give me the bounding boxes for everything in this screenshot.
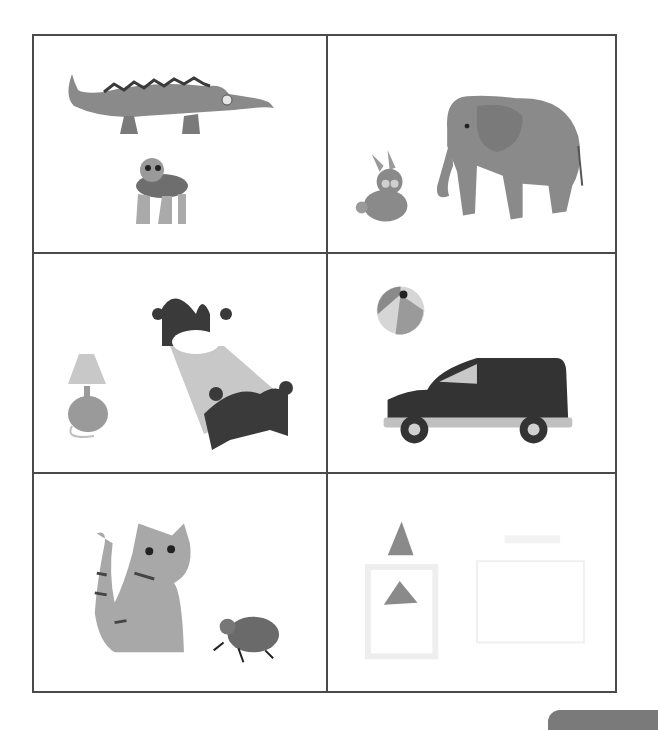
cell-rabbit-elephant[interactable] (328, 36, 615, 254)
van-icon (384, 358, 573, 443)
cat-beetle-illustration (34, 474, 326, 691)
rabbit-elephant-illustration (328, 36, 615, 252)
cell-ball-van[interactable] (328, 254, 615, 474)
beetle-icon (214, 617, 279, 663)
page-corner-tab (548, 710, 658, 730)
turtle-icon (136, 158, 188, 224)
cell-lamp-bed[interactable] (34, 254, 328, 474)
glue-bottle-icon (368, 522, 435, 657)
ball-van-illustration (328, 254, 615, 472)
picture-grid (32, 34, 617, 693)
cell-crocodile-turtle[interactable] (34, 36, 328, 254)
crocodile-icon (68, 74, 274, 134)
cell-glue-paper[interactable] (328, 474, 615, 691)
elephant-icon (437, 96, 582, 220)
glue-paper-illustration (328, 474, 615, 691)
rabbit-icon (356, 150, 408, 222)
cat-icon (95, 524, 191, 653)
beach-ball-icon (377, 287, 425, 335)
cell-cat-beetle[interactable] (34, 474, 328, 691)
crocodile-turtle-illustration (34, 36, 326, 252)
lamp-icon (68, 354, 108, 437)
bed-icon (152, 298, 293, 450)
lamp-bed-illustration (34, 254, 326, 472)
paper-sheet-icon (477, 535, 584, 642)
